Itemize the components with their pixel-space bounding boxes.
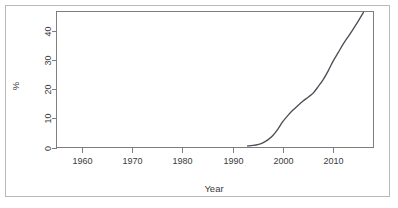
figure-container: 010203040 196019701980199020002010 Year … — [0, 0, 398, 208]
data-series-line-percent — [248, 12, 364, 146]
x-axis-tick-labels: 196019701980199020002010 — [72, 156, 343, 166]
x-tick-label: 1970 — [122, 156, 142, 166]
x-axis-ticks — [83, 148, 334, 153]
plot-panel-border — [57, 12, 374, 148]
x-axis-title: Year — [204, 183, 223, 194]
y-tick-label: 10 — [43, 113, 53, 123]
y-axis-tick-labels: 010203040 — [43, 26, 53, 151]
x-tick-label: 1990 — [223, 156, 243, 166]
y-tick-label: 30 — [43, 55, 53, 65]
chart-plot-area: 010203040 196019701980199020002010 Year … — [0, 0, 398, 208]
y-tick-label: 40 — [43, 26, 53, 36]
x-tick-label: 2000 — [273, 156, 293, 166]
x-tick-label: 1980 — [172, 156, 192, 166]
y-axis-title: % — [10, 81, 21, 90]
x-tick-label: 1960 — [72, 156, 92, 166]
y-tick-label: 20 — [43, 84, 53, 94]
x-tick-label: 2010 — [323, 156, 343, 166]
y-tick-label: 0 — [43, 146, 53, 151]
